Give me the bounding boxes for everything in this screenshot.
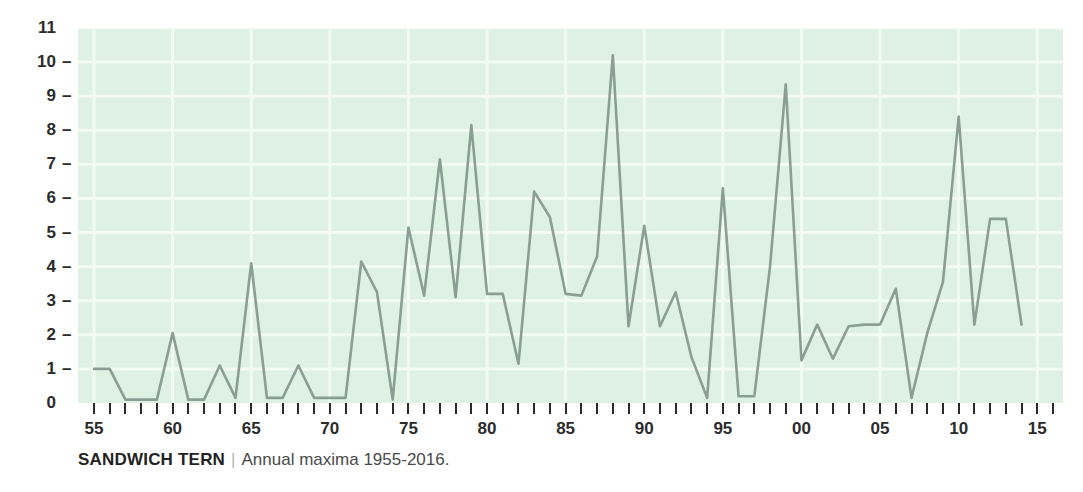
x-tick-mark bbox=[250, 403, 252, 414]
y-tick-label: 7 bbox=[30, 155, 56, 173]
x-tick-mark bbox=[533, 403, 535, 414]
y-tick-label: 1 bbox=[30, 360, 56, 378]
x-tick-mark bbox=[706, 403, 708, 414]
gridlines bbox=[78, 28, 1063, 403]
x-tick-label-65: 65 bbox=[242, 419, 261, 439]
y-tick-mark: – bbox=[62, 189, 78, 207]
data-series-line bbox=[94, 55, 1022, 399]
x-tick-mark bbox=[234, 403, 236, 414]
x-tick-mark bbox=[738, 403, 740, 414]
x-tick-mark bbox=[172, 403, 174, 414]
x-tick-label-90: 90 bbox=[635, 419, 654, 439]
x-tick-mark bbox=[612, 403, 614, 414]
x-tick-label-55: 55 bbox=[85, 419, 104, 439]
x-tick-mark bbox=[392, 403, 394, 414]
x-tick-mark bbox=[722, 403, 724, 414]
caption-separator: | bbox=[225, 450, 241, 469]
y-tick-1: 1– bbox=[30, 360, 78, 378]
x-tick-mark bbox=[486, 403, 488, 414]
x-tick-mark bbox=[973, 403, 975, 414]
x-tick-mark bbox=[596, 403, 598, 414]
x-tick-mark bbox=[848, 403, 850, 414]
x-tick-mark bbox=[423, 403, 425, 414]
x-tick-label-60: 60 bbox=[163, 419, 182, 439]
x-tick-mark bbox=[140, 403, 142, 414]
x-tick-mark bbox=[549, 403, 551, 414]
x-tick-label-00: 00 bbox=[792, 419, 811, 439]
x-tick-mark bbox=[329, 403, 331, 414]
x-tick-mark bbox=[297, 403, 299, 414]
x-tick-mark bbox=[863, 403, 865, 414]
x-tick-mark bbox=[926, 403, 928, 414]
x-tick-mark bbox=[989, 403, 991, 414]
x-tick-mark bbox=[1052, 403, 1054, 414]
y-tick-label: 9 bbox=[30, 87, 56, 105]
x-tick-mark bbox=[1036, 403, 1038, 414]
x-tick-mark bbox=[879, 403, 881, 414]
caption-species: SANDWICH TERN bbox=[78, 450, 225, 469]
y-tick-11: 11 bbox=[30, 19, 78, 37]
y-tick-label: 11 bbox=[30, 19, 56, 37]
x-tick-mark bbox=[628, 403, 630, 414]
x-tick-mark bbox=[895, 403, 897, 414]
x-tick-mark bbox=[109, 403, 111, 414]
y-tick-mark: – bbox=[62, 224, 78, 242]
x-tick-label-75: 75 bbox=[399, 419, 418, 439]
y-tick-label: 6 bbox=[30, 189, 56, 207]
x-tick-mark bbox=[769, 403, 771, 414]
x-tick-mark bbox=[1021, 403, 1023, 414]
caption-subtitle: Annual maxima 1955-2016. bbox=[242, 450, 450, 469]
y-tick-label: 8 bbox=[30, 121, 56, 139]
x-tick-mark bbox=[690, 403, 692, 414]
x-tick-mark bbox=[816, 403, 818, 414]
plot-area bbox=[78, 28, 1063, 403]
y-tick-mark: – bbox=[62, 326, 78, 344]
x-tick-mark bbox=[124, 403, 126, 414]
x-tick-label-80: 80 bbox=[478, 419, 497, 439]
x-tick-mark bbox=[942, 403, 944, 414]
y-tick-9: 9– bbox=[30, 87, 78, 105]
x-tick-label-15: 15 bbox=[1028, 419, 1047, 439]
chart-figure: 1110–9–8–7–6–5–4–3–2–1–0 556065707580859… bbox=[0, 0, 1083, 492]
x-tick-mark bbox=[156, 403, 158, 414]
y-tick-2: 2– bbox=[30, 326, 78, 344]
x-tick-mark bbox=[282, 403, 284, 414]
x-tick-mark bbox=[643, 403, 645, 414]
x-tick-mark bbox=[455, 403, 457, 414]
y-tick-mark: – bbox=[62, 155, 78, 173]
y-tick-4: 4– bbox=[30, 258, 78, 276]
x-tick-mark bbox=[785, 403, 787, 414]
x-tick-mark bbox=[376, 403, 378, 414]
x-tick-mark bbox=[580, 403, 582, 414]
y-tick-5: 5– bbox=[30, 224, 78, 242]
x-tick-mark bbox=[203, 403, 205, 414]
y-tick-mark: – bbox=[62, 258, 78, 276]
x-tick-mark bbox=[911, 403, 913, 414]
x-tick-mark bbox=[502, 403, 504, 414]
x-tick-mark bbox=[832, 403, 834, 414]
x-tick-label-70: 70 bbox=[320, 419, 339, 439]
x-tick-mark bbox=[958, 403, 960, 414]
x-tick-mark bbox=[675, 403, 677, 414]
x-tick-mark bbox=[565, 403, 567, 414]
x-tick-mark bbox=[1005, 403, 1007, 414]
y-tick-mark: – bbox=[62, 53, 78, 71]
x-tick-mark bbox=[517, 403, 519, 414]
x-tick-mark bbox=[800, 403, 802, 414]
x-tick-mark bbox=[659, 403, 661, 414]
y-tick-label: 5 bbox=[30, 224, 56, 242]
x-tick-mark bbox=[470, 403, 472, 414]
x-tick-mark bbox=[753, 403, 755, 414]
x-tick-mark bbox=[219, 403, 221, 414]
y-tick-7: 7– bbox=[30, 155, 78, 173]
x-axis: 55606570758085909500051015 bbox=[78, 403, 1063, 449]
x-tick-mark bbox=[345, 403, 347, 414]
y-tick-label: 2 bbox=[30, 326, 56, 344]
y-tick-mark: – bbox=[62, 292, 78, 310]
x-tick-mark bbox=[187, 403, 189, 414]
y-tick-mark: – bbox=[62, 121, 78, 139]
y-tick-mark: – bbox=[62, 87, 78, 105]
y-tick-label: 3 bbox=[30, 292, 56, 310]
y-tick-3: 3– bbox=[30, 292, 78, 310]
y-tick-label: 4 bbox=[30, 258, 56, 276]
